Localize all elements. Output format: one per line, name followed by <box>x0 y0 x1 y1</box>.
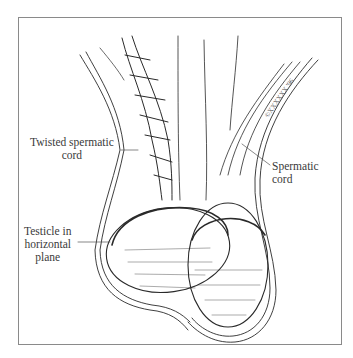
label-line: cord <box>272 173 319 186</box>
label-line: plane <box>24 251 71 264</box>
label-testicle-horizontal: Testicle in horizontal plane <box>24 225 71 264</box>
median-raphe <box>178 36 238 200</box>
label-line: cord <box>30 149 114 162</box>
label-twisted-spermatic-cord: Twisted spermatic cord <box>30 136 114 162</box>
twisted-spermatic-cord <box>100 36 172 200</box>
right-scrotal-wall <box>188 58 318 342</box>
label-line: horizontal <box>24 238 71 251</box>
right-testicle <box>188 203 268 327</box>
label-line: Twisted spermatic <box>30 136 114 149</box>
label-spermatic-cord: Spermatic cord <box>272 160 319 186</box>
label-line: Testicle in <box>24 225 71 238</box>
label-line: Spermatic <box>272 160 319 173</box>
